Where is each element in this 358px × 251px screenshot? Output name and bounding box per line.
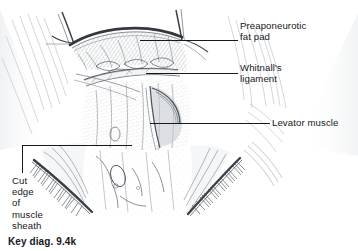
label-preaponeurotic-fat-pad: Preaponeurotic fat pad [240, 20, 306, 42]
levator-muscle [81, 79, 190, 151]
label-whitnalls-ligament: Whitnall's ligament [240, 62, 282, 84]
label-levator-muscle: Levator muscle [272, 117, 338, 128]
figure-page: Preaponeurotic fat pad Whitnall's ligame… [0, 0, 358, 251]
figure-caption: Key diag. 9.4k [8, 236, 76, 247]
label-cut-edge-of-muscle-sheath: Cut edge of muscle sheath [12, 175, 43, 231]
